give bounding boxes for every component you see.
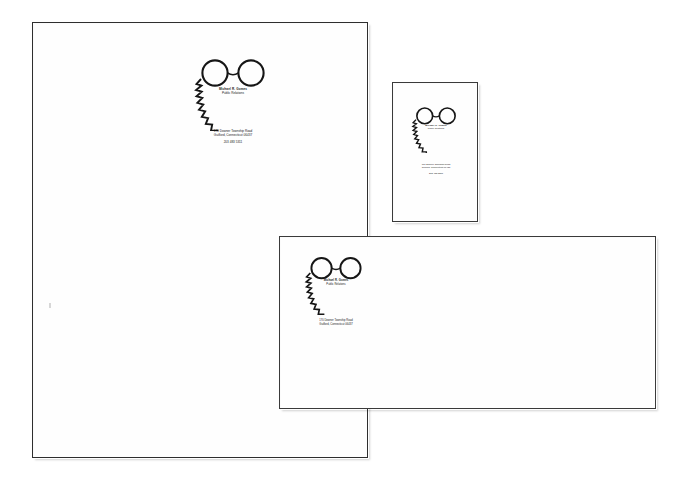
person-title: Public Relations (428, 127, 444, 130)
address-line-2: Guilford, Connecticut 06437 (422, 166, 450, 169)
envelope-address-block: 170 Downer Township Road Guilford, Conne… (291, 319, 381, 327)
scan-speck (49, 303, 51, 308)
envelope-sheet: Michael R. Gomes Public Relations 170 Do… (279, 236, 656, 409)
business-card-nameblock: Michael R. Gomes Public Relations (401, 124, 471, 130)
envelope-nameblock: Michael R. Gomes Public Relations (291, 279, 381, 286)
letterhead-logo: Michael R. Gomes Public Relations (177, 57, 289, 131)
address-line-2: Guilford, Connecticut 06437 (319, 323, 352, 327)
business-card-logo: Michael R. Gomes Public Relations (401, 105, 471, 153)
business-card-address-block: 170 Downer Township Road Guilford, Conne… (401, 163, 471, 175)
person-title: Public Relations (326, 283, 345, 287)
business-card-sheet: Michael R. Gomes Public Relations 170 Do… (392, 82, 478, 222)
letterhead-address-block: 170 Downer Township Road Guilford, Conne… (177, 129, 289, 144)
envelope-logo: Michael R. Gomes Public Relations (291, 255, 381, 315)
address-line-2: Guilford, Connecticut 06437 (214, 133, 252, 137)
letterhead-nameblock: Michael R. Gomes Public Relations (177, 87, 289, 95)
phone-number: 203 483 5311 (224, 140, 243, 144)
phone-number: 203 483 5311 (429, 172, 443, 175)
person-title: Public Relations (222, 91, 244, 95)
